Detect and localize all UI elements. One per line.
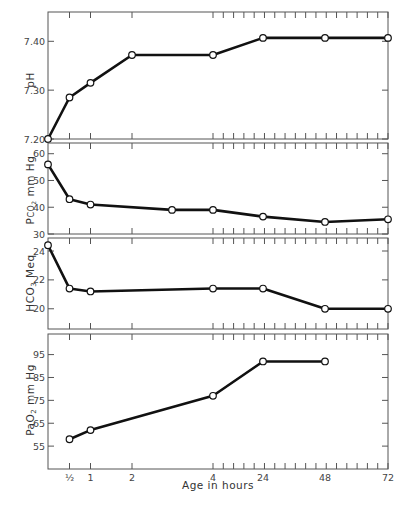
data-point xyxy=(210,52,217,59)
data-point xyxy=(66,285,73,292)
data-point xyxy=(87,80,94,87)
series-line xyxy=(48,245,388,309)
series-line xyxy=(48,164,388,222)
data-point xyxy=(66,196,73,203)
x-tick-label: 24 xyxy=(257,472,269,483)
panel-frame xyxy=(48,334,388,469)
data-point xyxy=(129,52,136,59)
panel-pco2: 30405060 xyxy=(33,143,391,240)
x-tick-label: 48 xyxy=(319,472,331,483)
panel-frame xyxy=(48,12,388,139)
data-point xyxy=(169,207,176,214)
data-point xyxy=(87,427,94,434)
data-point xyxy=(210,392,217,399)
data-point xyxy=(210,207,217,214)
data-point xyxy=(87,201,94,208)
x-axis-title: Age in hours xyxy=(182,479,254,491)
data-point xyxy=(45,242,52,249)
panel-hco3: 202224 xyxy=(33,238,391,329)
data-point xyxy=(322,358,329,365)
data-point xyxy=(260,285,267,292)
data-point xyxy=(322,35,329,42)
panel-ph-ylabel: pH xyxy=(24,72,36,88)
data-point xyxy=(66,94,73,101)
data-point xyxy=(66,436,73,443)
series-line xyxy=(70,361,326,439)
panel-pao2: 5565758595 xyxy=(33,334,388,469)
data-point xyxy=(260,35,267,42)
y-tick-label: 7.20 xyxy=(24,134,45,145)
data-point xyxy=(45,161,52,168)
x-tick-label: ½ xyxy=(65,472,74,483)
data-point xyxy=(385,35,392,42)
x-tick-label: 1 xyxy=(87,472,93,483)
data-point xyxy=(385,305,392,312)
data-point xyxy=(260,358,267,365)
panel-pao2-ylabel: PaO2 mm Hg xyxy=(24,364,38,436)
data-point xyxy=(45,136,52,143)
panel-frame xyxy=(48,238,388,329)
blood-gas-chart: 7.207.307.40304050602022245565758595 ½12… xyxy=(0,0,409,506)
series-line xyxy=(48,38,388,139)
panel-pco2-ylabel: PCO2 mm Hg xyxy=(24,156,37,225)
panel-hco3-ylabel: HCO3 Meq xyxy=(24,254,38,312)
data-point xyxy=(385,216,392,223)
y-tick-label: 30 xyxy=(33,229,45,240)
data-point xyxy=(87,288,94,295)
panel-ph: 7.207.307.40 xyxy=(24,12,391,145)
data-point xyxy=(260,213,267,220)
x-tick-label: 2 xyxy=(129,472,135,483)
x-tick-label: 72 xyxy=(382,472,394,483)
data-point xyxy=(210,285,217,292)
data-point xyxy=(322,219,329,226)
y-tick-label: 55 xyxy=(33,441,45,452)
data-point xyxy=(322,305,329,312)
y-tick-label: 95 xyxy=(33,349,45,360)
y-tick-label: 7.40 xyxy=(24,36,45,47)
